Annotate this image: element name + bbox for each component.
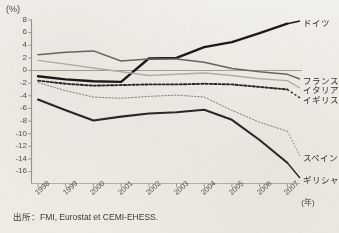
series-label-スペイン: スペイン — [303, 151, 338, 163]
y-tick-neg12: -12 — [5, 141, 27, 150]
y-tick-neg10: -10 — [5, 129, 27, 138]
x-axis-unit-label: (年) — [301, 196, 314, 207]
y-tick-neg14: -14 — [5, 154, 27, 163]
series-label-ドイツ: ドイツ — [303, 16, 330, 28]
line-chart-plot — [0, 0, 339, 233]
series-label-イギリス: イギリス — [303, 93, 339, 105]
y-tick-0: 0 — [5, 65, 27, 74]
y-tick-4: 4 — [5, 40, 27, 49]
source-note: 出所：FMI, Eurostat et CEMI-EHESS. — [13, 210, 158, 222]
y-tick-neg4: -4 — [5, 91, 27, 100]
y-tick-neg6: -6 — [5, 103, 27, 112]
y-tick-neg16: -16 — [5, 166, 27, 175]
y-tick-neg2: -2 — [5, 78, 27, 87]
series-label-ギリシャ: ギリシャ — [303, 173, 339, 185]
y-tick-8: 8 — [5, 15, 27, 24]
y-tick-neg8: -8 — [5, 116, 27, 125]
y-tick-6: 6 — [5, 27, 27, 36]
y-tick-2: 2 — [5, 53, 27, 62]
chart-container: (%) 86420-2-4-6-8-10-12-14-16 1998199920… — [0, 0, 339, 233]
